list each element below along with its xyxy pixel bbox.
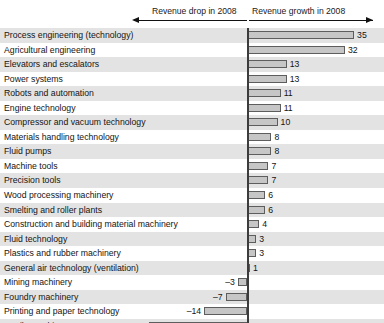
value-bar [247, 191, 265, 199]
category-label: Machine tools [4, 160, 58, 172]
category-label: Fluid technology [4, 233, 67, 245]
value-label: –14 [187, 305, 202, 317]
chart-rows: Process engineering (technology)35Agricu… [0, 28, 384, 323]
value-label: 6 [268, 189, 273, 201]
value-bar [238, 278, 247, 286]
category-label: Fluid pumps [4, 145, 51, 157]
value-bar [247, 104, 281, 112]
value-bar [247, 89, 281, 97]
left-arrow-line [139, 20, 247, 21]
arrow-left-icon [132, 17, 139, 23]
category-label: Foundry machinery [4, 291, 78, 303]
category-label: Printing and paper technology [4, 305, 119, 317]
category-label: Compressor and vacuum technology [4, 116, 146, 128]
value-bar [247, 206, 265, 214]
chart-row: Foundry machinery–7 [0, 290, 384, 305]
value-label: 7 [271, 160, 276, 172]
value-bar [226, 293, 247, 301]
zero-axis-line [247, 28, 249, 323]
category-label: Materials handling technology [4, 131, 119, 143]
value-bar [247, 162, 268, 170]
value-label: 3 [259, 247, 264, 259]
value-label: –3 [225, 276, 235, 288]
category-label: Elevators and escalators [4, 58, 99, 70]
chart-row: Robots and automation11 [0, 86, 384, 101]
chart-row: Textile machinery–32 [0, 319, 384, 323]
category-label: General air technology (ventilation) [4, 262, 139, 274]
category-label: Power systems [4, 73, 63, 85]
chart-row: Fluid technology3 [0, 232, 384, 247]
category-label: Smelting and roller plants [4, 204, 102, 216]
chart-row: Fluid pumps8 [0, 144, 384, 159]
chart-row: Engine technology11 [0, 101, 384, 116]
chart-row: Compressor and vacuum technology10 [0, 115, 384, 130]
value-bar [204, 307, 247, 315]
value-bar [247, 147, 271, 155]
chart-header: Revenue drop in 2008 Revenue growth in 2… [0, 0, 384, 28]
category-label: Process engineering (technology) [4, 29, 133, 41]
value-label: 10 [281, 116, 291, 128]
value-bar [247, 133, 271, 141]
category-label: Wood processing machinery [4, 189, 113, 201]
chart-row: Process engineering (technology)35 [0, 28, 384, 43]
chart-row: Elevators and escalators13 [0, 57, 384, 72]
arrow-right-icon [366, 17, 373, 23]
revenue-growth-direction-label: Revenue growth in 2008 [252, 6, 345, 16]
category-label: Robots and automation [4, 87, 94, 99]
chart-row: Plastics and rubber machinery3 [0, 246, 384, 261]
value-bar [247, 75, 287, 83]
value-label: 11 [284, 102, 293, 114]
value-label: 8 [274, 131, 279, 143]
value-label: 1 [253, 262, 258, 274]
chart-row: Power systems13 [0, 72, 384, 87]
chart-row: General air technology (ventilation)1 [0, 261, 384, 276]
chart-row: Machine tools7 [0, 159, 384, 174]
right-arrow-line [249, 20, 373, 21]
value-label: 32 [348, 44, 358, 56]
category-label: Construction and building material machi… [4, 218, 178, 230]
value-label: 7 [271, 174, 276, 186]
chart-row: Construction and building material machi… [0, 217, 384, 232]
chart-row: Agricultural engineering32 [0, 43, 384, 58]
category-label: Precision tools [4, 174, 61, 186]
value-label: 35 [357, 29, 367, 41]
value-label: 6 [268, 204, 273, 216]
chart-row: Mining machinery–3 [0, 275, 384, 290]
chart-row: Wood processing machinery6 [0, 188, 384, 203]
category-label: Plastics and rubber machinery [4, 247, 121, 259]
category-label: Mining machinery [4, 276, 72, 288]
value-bar [247, 46, 345, 54]
chart-row: Smelting and roller plants6 [0, 203, 384, 218]
value-bar [247, 118, 278, 126]
value-label: 3 [259, 233, 264, 245]
revenue-drop-direction-label: Revenue drop in 2008 [152, 6, 237, 16]
category-label: Agricultural engineering [4, 44, 95, 56]
chart-row: Materials handling technology8 [0, 130, 384, 145]
chart-row: Precision tools7 [0, 173, 384, 188]
value-bar [247, 176, 268, 184]
value-label: 8 [274, 145, 279, 157]
value-label: 4 [262, 218, 267, 230]
value-label: –7 [213, 291, 223, 303]
value-label: 11 [284, 87, 293, 99]
value-bar [247, 220, 259, 228]
value-label: 13 [290, 73, 300, 85]
revenue-change-bar-chart: Revenue drop in 2008 Revenue growth in 2… [0, 0, 384, 323]
category-label: Engine technology [4, 102, 76, 114]
value-bar [247, 60, 287, 68]
value-label: 13 [290, 58, 300, 70]
chart-row: Printing and paper technology–14 [0, 304, 384, 319]
value-bar [247, 31, 354, 39]
